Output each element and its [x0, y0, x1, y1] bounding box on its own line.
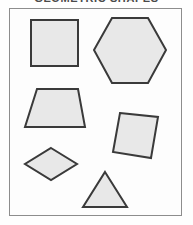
worksheet-page: GEOMETRIC SHAPES — [0, 0, 193, 225]
shape-trapezoid — [25, 89, 85, 127]
shape-hexagon — [94, 18, 166, 83]
shape-triangle — [83, 172, 127, 207]
shape-square — [31, 20, 78, 66]
shapes-canvas — [0, 0, 193, 225]
shape-rhombus — [25, 148, 77, 180]
shape-parallelogram — [113, 113, 158, 158]
